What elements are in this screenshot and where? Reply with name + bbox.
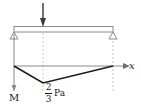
reaction-moment-arrowhead	[12, 85, 17, 92]
point-load-arrowhead	[40, 18, 46, 27]
moment-value-label: 2 3 Pa	[45, 83, 65, 104]
support-right-triangle	[109, 32, 117, 39]
beam-body	[14, 27, 113, 33]
bending-moment-curve	[14, 66, 113, 83]
point-load-arrow	[40, 3, 46, 27]
reaction-moment-label: M	[9, 93, 19, 103]
moment-value-unit: Pa	[54, 89, 65, 98]
bending-moment-polyline	[14, 66, 113, 83]
moment-value-numerator: 2	[46, 83, 52, 93]
x-axis-label: x	[129, 61, 135, 71]
reaction-moment-arrow	[12, 34, 17, 92]
beam-bending-moment-figure	[0, 0, 141, 112]
moment-value-fraction: 2 3	[45, 83, 52, 104]
support-right	[109, 32, 117, 39]
moment-value-denominator: 3	[46, 94, 52, 104]
beam	[14, 27, 113, 33]
